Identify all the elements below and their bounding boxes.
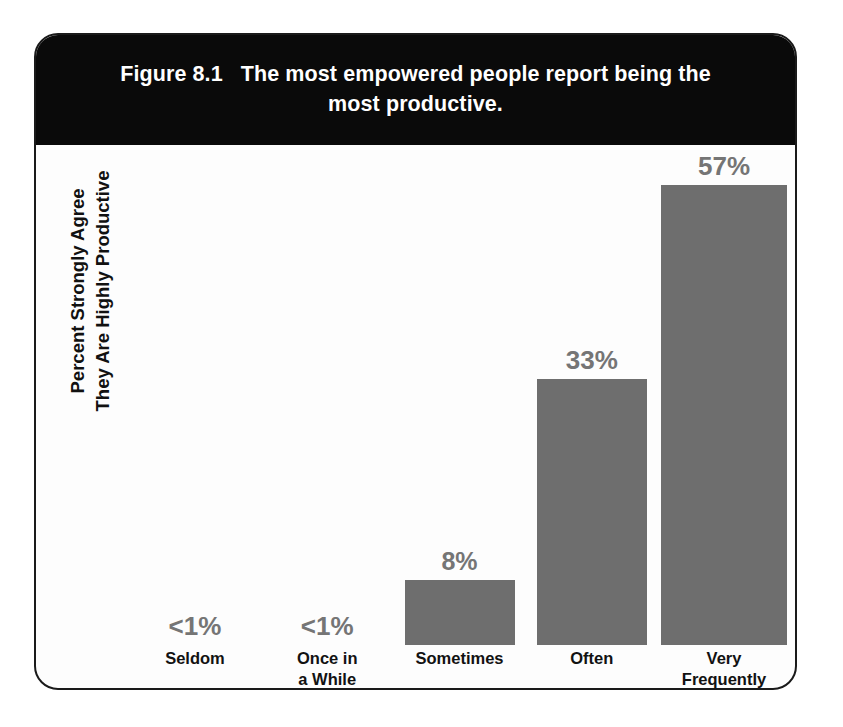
y-axis-label-line-2: They Are Highly Productive xyxy=(90,171,115,412)
category-label-sometimes: Sometimes xyxy=(397,648,523,690)
bar-often xyxy=(537,379,647,645)
plot-region: Percent Strongly Agree They Are Highly P… xyxy=(36,145,795,690)
bar-value-label-often: 33% xyxy=(566,345,618,375)
figure-title-line-1: Figure 8.1The most empowered people repo… xyxy=(120,59,711,89)
category-label-once-in-a-while-line-1: Once in xyxy=(264,648,390,669)
bar-very-frequently xyxy=(661,185,787,645)
bar-value-label-sometimes: 8% xyxy=(441,546,477,576)
bar-value-label-very-frequently: 57% xyxy=(698,151,750,181)
bar-column-very-frequently: 57% xyxy=(661,145,787,645)
figure-number: Figure 8.1 xyxy=(120,62,223,86)
category-label-very-frequently-line-2: Frequently xyxy=(661,669,787,690)
figure-title-text-1: The most empowered people report being t… xyxy=(241,62,711,86)
category-label-often: Often xyxy=(529,648,655,690)
category-label-often-line-1: Often xyxy=(529,648,655,669)
category-label-seldom: Seldom xyxy=(132,648,258,690)
bar-column-seldom: <1% xyxy=(132,145,258,645)
bar-sometimes xyxy=(405,580,515,645)
figure-header: Figure 8.1The most empowered people repo… xyxy=(34,33,797,145)
y-axis-label: Percent Strongly Agree They Are Highly P… xyxy=(62,141,118,441)
category-label-once-in-a-while-line-2: a While xyxy=(264,669,390,690)
category-labels: Seldom Once in a While Sometimes Often V… xyxy=(132,648,787,690)
figure-frame: Figure 8.1The most empowered people repo… xyxy=(34,33,797,690)
category-label-sometimes-line-1: Sometimes xyxy=(397,648,523,669)
bar-column-once-in-a-while: <1% xyxy=(264,145,390,645)
bar-value-label-once-in-a-while: <1% xyxy=(301,611,354,641)
bar-column-often: 33% xyxy=(529,145,655,645)
bar-columns: <1% <1% 8% 33% 57% xyxy=(132,145,787,645)
category-label-very-frequently-line-1: Very xyxy=(661,648,787,669)
figure-title-line-2: most productive. xyxy=(328,89,503,119)
bar-column-sometimes: 8% xyxy=(397,145,523,645)
category-label-seldom-line-1: Seldom xyxy=(132,648,258,669)
category-label-very-frequently: Very Frequently xyxy=(661,648,787,690)
bar-value-label-seldom: <1% xyxy=(169,611,222,641)
category-label-once-in-a-while: Once in a While xyxy=(264,648,390,690)
y-axis-label-line-1: Percent Strongly Agree xyxy=(65,189,90,394)
